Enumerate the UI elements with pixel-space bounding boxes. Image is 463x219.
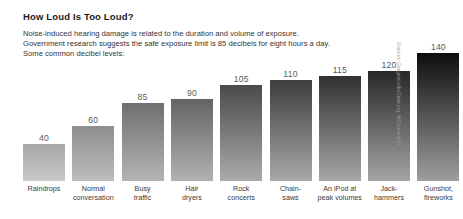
category-label: Rockconcerts xyxy=(215,184,267,203)
bar xyxy=(122,103,164,181)
bar-column: 120 xyxy=(368,40,410,181)
category-label-line: traffic xyxy=(117,193,169,202)
bar xyxy=(270,80,312,181)
bar-column: 140 xyxy=(417,40,459,181)
category-label-line: concerts xyxy=(215,193,267,202)
category-label: An iPod atpeak volumes xyxy=(314,184,366,203)
plot-area: 40608590105110115120140 xyxy=(23,40,397,181)
category-label-line: Jack- xyxy=(363,184,415,193)
category-axis: RaindropsNormalconversationBusytrafficHa… xyxy=(23,184,397,214)
category-label-line: conversation xyxy=(67,193,119,202)
category-label-line: Gunshot, xyxy=(412,184,463,193)
bar xyxy=(72,126,114,181)
bar xyxy=(171,99,213,181)
bar-value-label: 120 xyxy=(368,60,410,70)
bar-value-label: 90 xyxy=(171,88,213,98)
bar-value-label: 110 xyxy=(270,69,312,79)
source-credit: Sources: Gangemi.edu/Dunn.org; WSJ resea… xyxy=(395,42,401,142)
bar-value-label: 105 xyxy=(220,74,262,84)
subtitle-line-1: Noise-induced hearing damage is related … xyxy=(23,29,343,39)
category-label-line: Hair xyxy=(166,184,218,193)
category-label: Gunshot,fireworks xyxy=(412,184,463,203)
bar-column: 60 xyxy=(72,40,114,181)
bar-column: 85 xyxy=(122,40,164,181)
bar xyxy=(417,53,459,181)
bar-column: 110 xyxy=(270,40,312,181)
bar-column: 115 xyxy=(319,40,361,181)
category-label-line: hammers xyxy=(363,193,415,202)
bar xyxy=(368,71,410,181)
page-title: How Loud Is Too Loud? xyxy=(23,11,343,23)
category-label: Normalconversation xyxy=(67,184,119,203)
bar xyxy=(220,85,262,181)
category-label-line: fireworks xyxy=(412,193,463,202)
bar xyxy=(319,76,361,181)
bar-value-label: 140 xyxy=(417,42,459,52)
category-label-line: Rock xyxy=(215,184,267,193)
bar-value-label: 40 xyxy=(23,133,65,143)
category-label-line: dryers xyxy=(166,193,218,202)
category-label-line: peak volumes xyxy=(314,193,366,202)
category-label: Busytraffic xyxy=(117,184,169,203)
bar-column: 90 xyxy=(171,40,213,181)
bar-column: 105 xyxy=(220,40,262,181)
category-label-line: Raindrops xyxy=(18,184,70,193)
bar-column: 40 xyxy=(23,40,65,181)
category-label: Chain-saws xyxy=(265,184,317,203)
category-label-line: An iPod at xyxy=(314,184,366,193)
category-label-line: Normal xyxy=(67,184,119,193)
bar-value-label: 60 xyxy=(72,115,114,125)
category-label: Jack-hammers xyxy=(363,184,415,203)
category-label-line: saws xyxy=(265,193,317,202)
category-label-line: Busy xyxy=(117,184,169,193)
bar-value-label: 85 xyxy=(122,92,164,102)
bar xyxy=(23,144,65,181)
category-label-line: Chain- xyxy=(265,184,317,193)
category-label: Hairdryers xyxy=(166,184,218,203)
category-label: Raindrops xyxy=(18,184,70,193)
bar-value-label: 115 xyxy=(319,65,361,75)
